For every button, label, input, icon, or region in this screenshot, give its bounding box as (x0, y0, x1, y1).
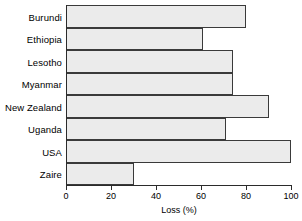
x-axis-tick-label: 0 (51, 191, 81, 201)
x-axis-tick-label: 80 (231, 191, 261, 201)
bar-chart: Burundi Ethiopia Lesotho Myanmar New Zea… (0, 0, 302, 221)
x-axis-line (66, 185, 292, 186)
x-axis-tick (246, 186, 247, 190)
bar (66, 140, 291, 163)
category-label: Zaire (0, 170, 62, 180)
x-axis-tick (156, 186, 157, 190)
x-axis-tick-label: 40 (141, 191, 171, 201)
bar (66, 5, 246, 28)
bar (66, 73, 233, 96)
category-label: Burundi (0, 13, 62, 23)
x-axis-tick (66, 186, 67, 190)
category-axis-labels: Burundi Ethiopia Lesotho Myanmar New Zea… (0, 5, 64, 185)
bar (66, 118, 226, 141)
bar (66, 28, 203, 51)
category-label: USA (0, 148, 62, 158)
x-axis-tick-label: 100 (276, 191, 302, 201)
x-axis-tick-label: 60 (186, 191, 216, 201)
plot-area (66, 5, 291, 185)
x-axis-tick (201, 186, 202, 190)
category-label: Myanmar (0, 80, 62, 90)
x-axis-tick (111, 186, 112, 190)
category-label: New Zealand (0, 103, 62, 113)
category-label: Uganda (0, 125, 62, 135)
y-axis-line (66, 5, 67, 186)
category-label: Lesotho (0, 58, 62, 68)
bar (66, 163, 134, 186)
x-axis-tick-label: 20 (96, 191, 126, 201)
x-axis-title: Loss (%) (66, 205, 292, 215)
bar (66, 50, 233, 73)
category-label: Ethiopia (0, 35, 62, 45)
x-axis-tick (291, 186, 292, 190)
bar (66, 95, 269, 118)
